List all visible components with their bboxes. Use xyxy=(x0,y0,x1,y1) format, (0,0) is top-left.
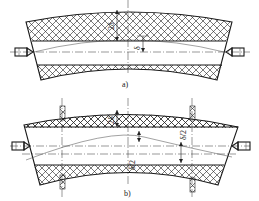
deflection-curve-a xyxy=(34,40,224,52)
clamp-top-left-icon xyxy=(60,106,65,120)
clamp-bottom-left-icon xyxy=(60,175,65,189)
subfigure-a: 2δ δ a) xyxy=(10,0,250,89)
clamp-bottom-right-icon xyxy=(190,178,195,192)
diagram-stage: 2δ δ a) xyxy=(0,0,259,201)
label-delta-half-right: δ/2 xyxy=(179,130,188,140)
hatched-bottom-region-a xyxy=(37,65,222,80)
caption-b: b) xyxy=(124,189,131,198)
label-delta-a: δ xyxy=(133,46,142,50)
label-2delta-b: 2δ xyxy=(107,116,116,124)
deflection-curve-b xyxy=(26,135,232,160)
label-delta-half-mid: δ/2 xyxy=(128,160,137,170)
clamp-top-right-icon xyxy=(190,106,195,120)
technical-drawing: 2δ δ a) xyxy=(0,0,259,201)
subfigure-b: 2δ δ/2 δ/2 b) xyxy=(10,98,250,198)
label-2delta-a: 2δ xyxy=(107,22,116,30)
caption-a: a) xyxy=(122,80,129,89)
